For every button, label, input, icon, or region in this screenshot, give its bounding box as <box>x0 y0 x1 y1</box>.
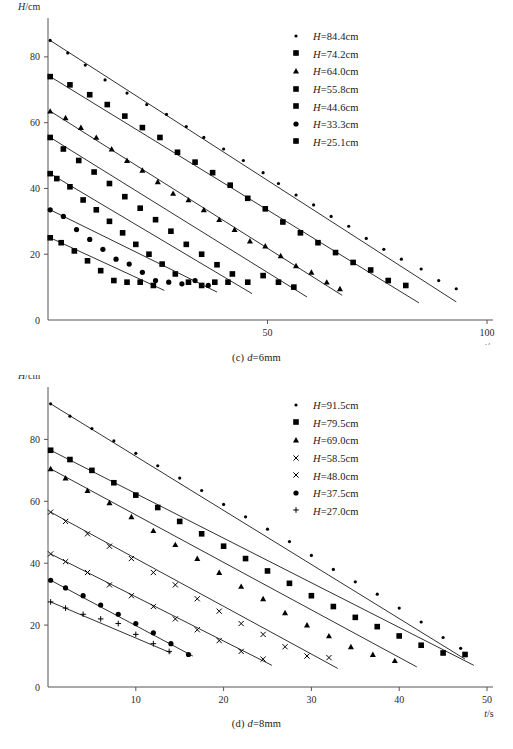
y-tick-label: 60 <box>30 496 40 507</box>
legend-item: H=48.0cm <box>288 467 359 485</box>
caption-c-value: =6mm <box>253 352 281 363</box>
x-tick-label: 10 <box>131 694 141 705</box>
figure-page: 02040608050100H/cmt/s H=84.4cmH=74.2cmH=… <box>0 0 513 749</box>
y-tick-label: 20 <box>30 620 40 631</box>
legend-item-label: H=91.5cm <box>313 400 359 411</box>
caption-c: (c) d=6mm <box>0 352 513 363</box>
cross-marker <box>288 453 304 465</box>
small-dot-marker <box>288 31 304 43</box>
y-tick-label: 40 <box>30 183 40 194</box>
triangle-marker <box>288 435 304 447</box>
scatter-plot-c: 02040608050100H/cmt/s <box>0 0 513 345</box>
square-marker <box>288 48 304 60</box>
y-tick-label: 80 <box>30 51 40 62</box>
legend-item-label: H=69.0cm <box>313 435 359 446</box>
legend-item: H=84.4cm <box>288 28 359 46</box>
y-tick-label: 80 <box>30 434 40 445</box>
circle-marker <box>288 119 304 131</box>
legend-item: H=91.5cm <box>288 397 359 415</box>
cross-marker <box>288 470 304 482</box>
x-axis-label: t/s <box>484 341 494 345</box>
series-H=44.6cm <box>47 171 252 294</box>
x-tick-label: 50 <box>482 694 492 705</box>
legend-item-label: H=27.0cm <box>313 506 359 517</box>
figure-c: 02040608050100H/cmt/s H=84.4cmH=74.2cmH=… <box>0 0 513 375</box>
plot-area-d: 0204060801020304050H/cmt/s <box>0 375 513 720</box>
x-tick-label: 30 <box>306 694 316 705</box>
legend-item: H=25.1cm <box>288 134 359 152</box>
legend-item-label: H=25.1cm <box>313 137 359 148</box>
series-H=27.0cm <box>48 599 172 654</box>
legend-item-label: H=33.3cm <box>313 119 359 130</box>
legend-item-label: H=79.5cm <box>313 418 359 429</box>
figure-d: 0204060801020304050H/cmt/s H=91.5cmH=79.… <box>0 375 513 749</box>
legend-item: H=79.5cm <box>288 415 359 433</box>
plus-marker <box>288 505 304 517</box>
series-H=91.5cm <box>49 402 465 659</box>
square-marker <box>288 417 304 429</box>
y-tick-label: 20 <box>30 249 40 260</box>
caption-c-prefix: (c) <box>232 352 244 363</box>
legend-item: H=64.0cm <box>288 63 359 81</box>
x-tick-label: 100 <box>480 327 495 338</box>
legend-item-label: H=64.0cm <box>313 66 359 77</box>
legend-item: H=33.3cm <box>288 116 359 134</box>
legend-d: H=91.5cmH=79.5cmH=69.0cmH=58.5cmH=48.0cm… <box>288 397 359 520</box>
legend-item-label: H=44.6cm <box>313 102 359 113</box>
legend-item-label: H=37.5cm <box>313 488 359 499</box>
small-dot-marker <box>288 400 304 412</box>
y-tick-label: 40 <box>30 558 40 569</box>
x-tick-label: 40 <box>394 694 404 705</box>
series-H=69.0cm <box>48 466 417 667</box>
caption-d: (d) d=8mm <box>0 718 513 729</box>
y-tick-label: 0 <box>35 315 40 326</box>
y-axis-label: H/cm <box>17 1 40 12</box>
legend-item-label: H=58.5cm <box>313 453 359 464</box>
legend-item: H=37.5cm <box>288 485 359 503</box>
legend-item: H=27.0cm <box>288 503 359 521</box>
y-axis-label: H/cm <box>17 375 40 381</box>
legend-item: H=55.8cm <box>288 81 359 99</box>
square-marker <box>288 84 304 96</box>
square-marker <box>288 101 304 113</box>
legend-item-label: H=48.0cm <box>313 471 359 482</box>
legend-item-label: H=55.8cm <box>313 84 359 95</box>
legend-item: H=58.5cm <box>288 450 359 468</box>
legend-item: H=69.0cm <box>288 432 359 450</box>
scatter-plot-d: 0204060801020304050H/cmt/s <box>0 375 513 720</box>
circle-marker <box>288 488 304 500</box>
caption-d-prefix: (d) <box>232 718 245 729</box>
legend-item-label: H=84.4cm <box>313 31 359 42</box>
triangle-marker <box>288 66 304 78</box>
x-tick-label: 50 <box>263 327 273 338</box>
square-marker <box>288 136 304 148</box>
y-tick-label: 60 <box>30 117 40 128</box>
legend-item-label: H=74.2cm <box>313 49 359 60</box>
legend-item: H=44.6cm <box>288 98 359 116</box>
legend-c: H=84.4cmH=74.2cmH=64.0cmH=55.8cmH=44.6cm… <box>288 28 359 151</box>
series-H=58.5cm <box>48 510 338 669</box>
y-tick-label: 0 <box>35 682 40 693</box>
series-H=25.1cm <box>47 235 164 290</box>
legend-item: H=74.2cm <box>288 46 359 64</box>
x-tick-label: 20 <box>219 694 229 705</box>
caption-d-value: =8mm <box>253 718 281 729</box>
plot-area-c: 02040608050100H/cmt/s <box>0 0 513 345</box>
series-H=84.4cm <box>49 39 458 302</box>
